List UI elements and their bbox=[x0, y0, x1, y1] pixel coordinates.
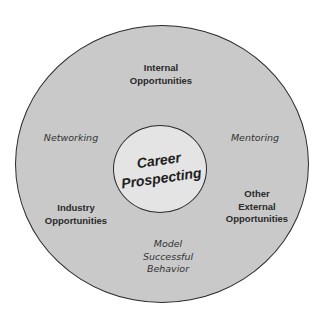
label-other-external-opportunities: Other External Opportunities bbox=[216, 188, 298, 226]
label-line: Behavior bbox=[130, 263, 206, 276]
label-line: Mentoring bbox=[222, 132, 288, 145]
label-line: External bbox=[216, 201, 298, 214]
center-label-career-prospecting: Career Prospecting bbox=[107, 119, 212, 219]
label-line: Successful bbox=[130, 251, 206, 264]
label-line: Industry bbox=[36, 202, 116, 215]
label-line: Other bbox=[216, 188, 298, 201]
label-line: Opportunities bbox=[216, 213, 298, 226]
center-label-line-2: Prospecting bbox=[120, 163, 203, 192]
label-line: Networking bbox=[36, 132, 106, 145]
label-networking: Networking bbox=[36, 132, 106, 145]
label-line: Model bbox=[130, 238, 206, 251]
label-model-successful-behavior: Model Successful Behavior bbox=[130, 238, 206, 276]
label-line: Internal bbox=[120, 62, 202, 75]
label-mentoring: Mentoring bbox=[222, 132, 288, 145]
label-line: Opportunities bbox=[120, 75, 202, 88]
label-internal-opportunities: Internal Opportunities bbox=[120, 62, 202, 87]
label-industry-opportunities: Industry Opportunities bbox=[36, 202, 116, 227]
label-line: Opportunities bbox=[36, 215, 116, 228]
